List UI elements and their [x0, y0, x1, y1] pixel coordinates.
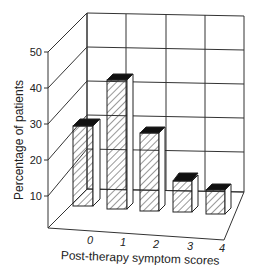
bar-1	[107, 74, 133, 209]
bar-2	[140, 127, 165, 211]
y-tick-label: 10	[30, 190, 42, 202]
bar-3	[173, 173, 198, 212]
x-tick-label: 1	[120, 236, 126, 248]
y-tick-label: 50	[30, 46, 42, 58]
x-tick-label: 4	[219, 242, 225, 254]
x-tick-label: 2	[152, 238, 159, 250]
y-tick-label: 40	[30, 82, 42, 94]
x-tick-label: 0	[87, 234, 94, 246]
y-tick-label: 20	[30, 154, 42, 166]
bar-4	[206, 184, 231, 214]
bar-0	[73, 119, 100, 206]
x-axis-label: Post-therapy symptom scores	[61, 248, 220, 268]
bar-chart-3d: 50 40 30 20 10 Percentage of patients	[0, 0, 256, 275]
bars	[73, 74, 231, 214]
y-tick-label: 30	[30, 118, 42, 130]
y-axis: 50 40 30 20 10	[30, 46, 48, 202]
x-tick-label: 3	[187, 240, 194, 252]
y-axis-label: Percentage of patients	[12, 80, 26, 200]
